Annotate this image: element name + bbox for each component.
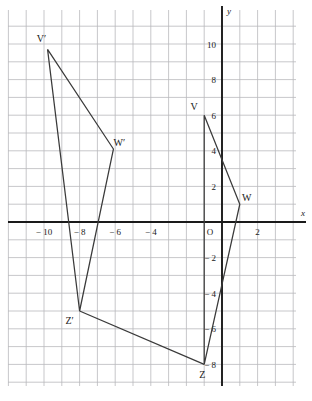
triangle-path [48,49,114,311]
x-tick-label: − 6 [109,227,121,237]
y-tick-label: 10 [207,40,217,50]
vertex-label: Z′ [65,315,73,326]
x-axis-name: x [300,208,305,218]
plot-svg: − 10− 8− 6− 42108642− 2− 4− 6− 8O VWZV′W… [0,0,312,401]
y-tick-label: 2 [212,182,217,192]
x-tick-label: − 4 [145,227,157,237]
y-axis-name: y [226,6,231,16]
grid-lines [8,10,296,386]
coordinate-plane-figure: − 10− 8− 6− 42108642− 2− 4− 6− 8O VWZV′W… [0,0,312,401]
triangle-path [80,311,205,364]
vertex-labels: VWZV′W′Z′ [37,33,252,380]
vertex-label: V′ [37,33,46,44]
y-tick-label: 8 [212,75,217,85]
origin-label: O [207,227,214,237]
x-tick-label: − 8 [74,227,86,237]
y-tick-label: − 2 [204,253,216,263]
vertex-label: W′ [114,137,126,148]
y-tick-label: − 4 [204,289,216,299]
vertex-label: W [242,192,252,203]
x-tick-label: − 10 [36,227,53,237]
vertex-label: Z [199,369,205,380]
x-tick-label: 2 [255,227,260,237]
y-tick-label: − 6 [204,324,216,334]
y-tick-label: − 8 [204,360,216,370]
triangle-shapes [48,49,240,364]
y-tick-label: 4 [212,146,217,156]
y-tick-label: 6 [212,111,217,121]
vertex-label: V [191,101,199,112]
